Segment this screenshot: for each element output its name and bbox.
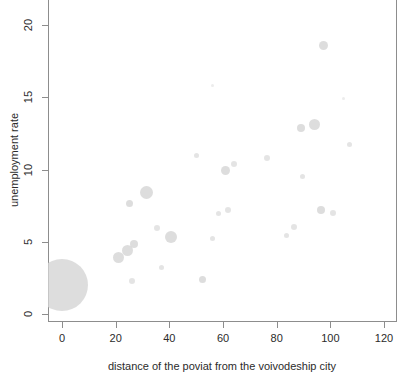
x-axis-title: distance of the poviat from the voivodes… bbox=[108, 360, 336, 372]
data-point bbox=[154, 225, 160, 231]
data-point bbox=[231, 161, 237, 167]
data-point bbox=[300, 174, 305, 179]
y-tick-label: 0 bbox=[23, 311, 34, 317]
y-tick-mark bbox=[42, 314, 48, 315]
data-point bbox=[297, 124, 305, 132]
y-tick-label: 10 bbox=[23, 163, 34, 175]
y-tick-mark bbox=[42, 97, 48, 98]
data-point bbox=[126, 200, 133, 207]
data-point bbox=[129, 278, 135, 284]
data-point bbox=[319, 41, 328, 50]
data-point bbox=[330, 210, 336, 216]
data-point bbox=[216, 211, 221, 216]
x-tick-mark bbox=[169, 322, 170, 328]
x-tick-label: 60 bbox=[217, 333, 229, 344]
x-tick-label: 40 bbox=[163, 333, 175, 344]
y-tick-mark bbox=[42, 170, 48, 171]
y-tick-label: 15 bbox=[23, 91, 34, 103]
data-point bbox=[210, 236, 215, 241]
data-point bbox=[284, 233, 289, 238]
x-tick-label: 20 bbox=[110, 333, 122, 344]
data-point bbox=[194, 153, 199, 158]
data-point bbox=[130, 240, 138, 248]
x-tick-mark bbox=[277, 322, 278, 328]
chart-figure: 020406080100120 05101520 distance of the… bbox=[0, 0, 405, 375]
x-tick-label: 0 bbox=[59, 333, 65, 344]
data-point bbox=[317, 206, 325, 214]
x-tick-mark bbox=[223, 322, 224, 328]
x-tick-mark bbox=[62, 322, 63, 328]
x-tick-label: 120 bbox=[375, 333, 393, 344]
data-point bbox=[291, 224, 297, 230]
y-tick-label: 20 bbox=[23, 19, 34, 31]
data-point bbox=[309, 119, 320, 130]
y-axis-title: unemployment rate bbox=[8, 113, 20, 207]
data-point bbox=[264, 155, 270, 161]
data-point bbox=[342, 97, 345, 100]
x-tick-mark bbox=[384, 322, 385, 328]
data-point bbox=[48, 259, 88, 311]
data-point bbox=[221, 166, 230, 175]
x-tick-label: 80 bbox=[271, 333, 283, 344]
data-point bbox=[199, 276, 206, 283]
plot-area bbox=[48, 0, 397, 322]
data-point bbox=[225, 207, 231, 213]
data-point bbox=[159, 265, 164, 270]
data-point bbox=[211, 84, 214, 87]
x-tick-label: 100 bbox=[321, 333, 339, 344]
y-tick-label: 5 bbox=[23, 239, 34, 245]
data-point bbox=[165, 231, 177, 243]
x-tick-mark bbox=[330, 322, 331, 328]
data-point bbox=[140, 186, 153, 199]
y-tick-mark bbox=[42, 25, 48, 26]
data-point bbox=[347, 142, 352, 147]
x-tick-mark bbox=[116, 322, 117, 328]
y-tick-mark bbox=[42, 242, 48, 243]
